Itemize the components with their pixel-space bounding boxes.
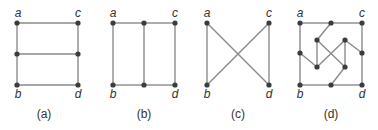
- vertex-label: c: [172, 6, 178, 20]
- graph-vertex: [14, 20, 19, 25]
- graph-vertex: [342, 64, 347, 69]
- graph-vertex: [75, 20, 80, 25]
- graph-vertex: [14, 51, 19, 56]
- graph-caption: (b): [137, 107, 152, 121]
- vertex-label: b: [110, 87, 117, 101]
- graph-d: acbd(d): [297, 6, 366, 121]
- graph-vertex: [314, 37, 319, 42]
- graph-c: acbd(c): [204, 6, 273, 121]
- graph-vertex: [266, 20, 271, 25]
- graph-edge: [331, 67, 345, 85]
- vertex-label: d: [172, 87, 179, 101]
- graph-caption: (a): [37, 107, 52, 121]
- vertex-label: a: [110, 6, 117, 20]
- graph-vertex: [172, 20, 177, 25]
- graph-vertex: [141, 20, 146, 25]
- graph-caption: (d): [324, 107, 339, 121]
- vertex-label: d: [75, 87, 82, 101]
- graph-vertex: [75, 51, 80, 56]
- vertex-label: a: [204, 6, 211, 20]
- vertex-label: a: [15, 6, 22, 20]
- graph-vertex: [328, 82, 333, 87]
- vertex-label: b: [297, 87, 304, 101]
- graph-edge: [300, 53, 317, 67]
- graph-vertex: [342, 37, 347, 42]
- vertex-label: c: [359, 6, 365, 20]
- vertex-label: c: [75, 6, 81, 20]
- vertex-label: b: [204, 87, 211, 101]
- graph-vertex: [359, 50, 364, 55]
- graph-b: acbd(b): [110, 6, 179, 121]
- graph-vertex: [359, 20, 364, 25]
- graph-vertex: [204, 20, 209, 25]
- graph-a: acbd(a): [14, 6, 81, 121]
- graph-vertex: [297, 20, 302, 25]
- graph-vertex: [297, 50, 302, 55]
- vertex-label: d: [359, 87, 366, 101]
- graph-vertex: [328, 20, 333, 25]
- graph-caption: (c): [231, 107, 245, 121]
- graph-figure: acbd(a) acbd(b) acbd(c) acbd(d): [0, 0, 378, 130]
- vertex-label: d: [266, 87, 273, 101]
- vertex-label: c: [266, 6, 272, 20]
- graph-vertex: [141, 82, 146, 87]
- graph-edge: [345, 40, 362, 53]
- graph-vertex: [110, 20, 115, 25]
- graph-edge: [317, 23, 331, 40]
- graph-vertex: [314, 64, 319, 69]
- vertex-label: a: [297, 6, 304, 20]
- vertex-label: b: [15, 87, 22, 101]
